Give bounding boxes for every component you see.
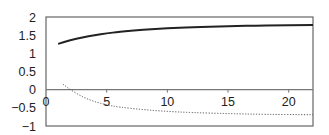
x-tick-label: 10 [160,95,174,109]
solid-series-line [58,25,313,44]
x-tick-label: 0 [43,95,50,109]
x-axis-ticks: 05101520 [43,90,296,109]
y-axis-ticks: 21.510.50−0.5−1 [11,11,36,134]
x-tick-label: 15 [221,95,235,109]
plot-frame [46,17,313,126]
y-tick-label: 1 [29,47,36,61]
y-tick-label: 2 [29,11,36,25]
x-tick-label: 20 [282,95,296,109]
y-tick-label: −0.5 [11,101,36,115]
dotted-series-line [63,84,313,115]
y-tick-label: 0 [29,83,36,97]
y-tick-label: 1.5 [19,29,36,43]
x-tick-label: 5 [103,95,110,109]
series-lines [58,25,313,115]
y-tick-label: 0.5 [19,65,36,79]
line-chart: 21.510.50−0.5−1 05101520 [0,0,329,135]
y-tick-label: −1 [22,120,36,134]
